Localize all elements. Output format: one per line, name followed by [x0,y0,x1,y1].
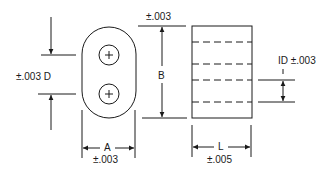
dimension-drawing: ±.003 D A ±.003 B ±.003 ID ±.003 L ±.005 [0,0,332,171]
upper-hole-center-mark [105,51,113,59]
side-body-outline [192,26,252,118]
end-view [38,17,187,158]
lower-hole-center-mark [105,90,113,98]
b-dimension-label: B [158,70,165,81]
a-tolerance-label: ±.003 [93,154,118,165]
side-view [192,26,295,157]
a-dimension-label: A [104,142,111,153]
d-dimension-label: ±.003 D [16,71,51,82]
l-tolerance-label: ±.005 [207,154,232,165]
id-dimension-label: ID ±.003 [278,55,316,66]
b-tolerance-label: ±.003 [146,11,171,22]
l-dimension-label: L [218,141,224,152]
